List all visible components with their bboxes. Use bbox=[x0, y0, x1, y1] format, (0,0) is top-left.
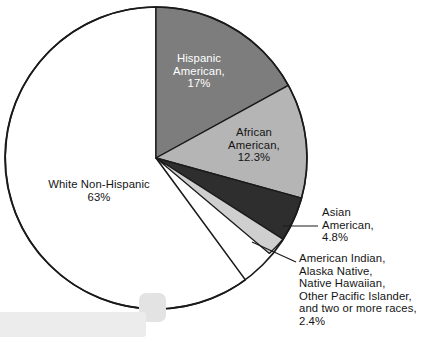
slice-label-african-american: African American, 12.3% bbox=[213, 126, 295, 164]
scan-artifact-bar bbox=[0, 312, 146, 337]
slice-label-hispanic-american: Hispanic American, 17% bbox=[160, 52, 238, 90]
pie-chart: Hispanic American, 17% African American,… bbox=[0, 0, 424, 337]
slice-label-asian-american: Asian American, 4.8% bbox=[322, 206, 422, 244]
slice-label-american-indian-group: American Indian, Alaska Native, Native H… bbox=[299, 252, 424, 328]
slice-label-white-non-hispanic: White Non-Hispanic 63% bbox=[34, 178, 164, 203]
